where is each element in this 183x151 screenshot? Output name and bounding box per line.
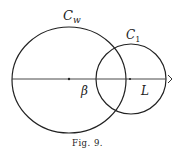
center-dot-c1 bbox=[129, 78, 131, 80]
arrow-icon bbox=[168, 75, 172, 83]
figure-caption: Fig. 9. bbox=[72, 138, 103, 148]
label-beta: β bbox=[80, 84, 88, 98]
label-cw: Cw bbox=[63, 8, 81, 25]
figure-diagram: Cw C1 β L Fig. 9. bbox=[0, 0, 183, 151]
label-c1: C1 bbox=[126, 28, 140, 44]
label-l: L bbox=[140, 84, 149, 98]
center-dot-cw bbox=[68, 78, 70, 80]
